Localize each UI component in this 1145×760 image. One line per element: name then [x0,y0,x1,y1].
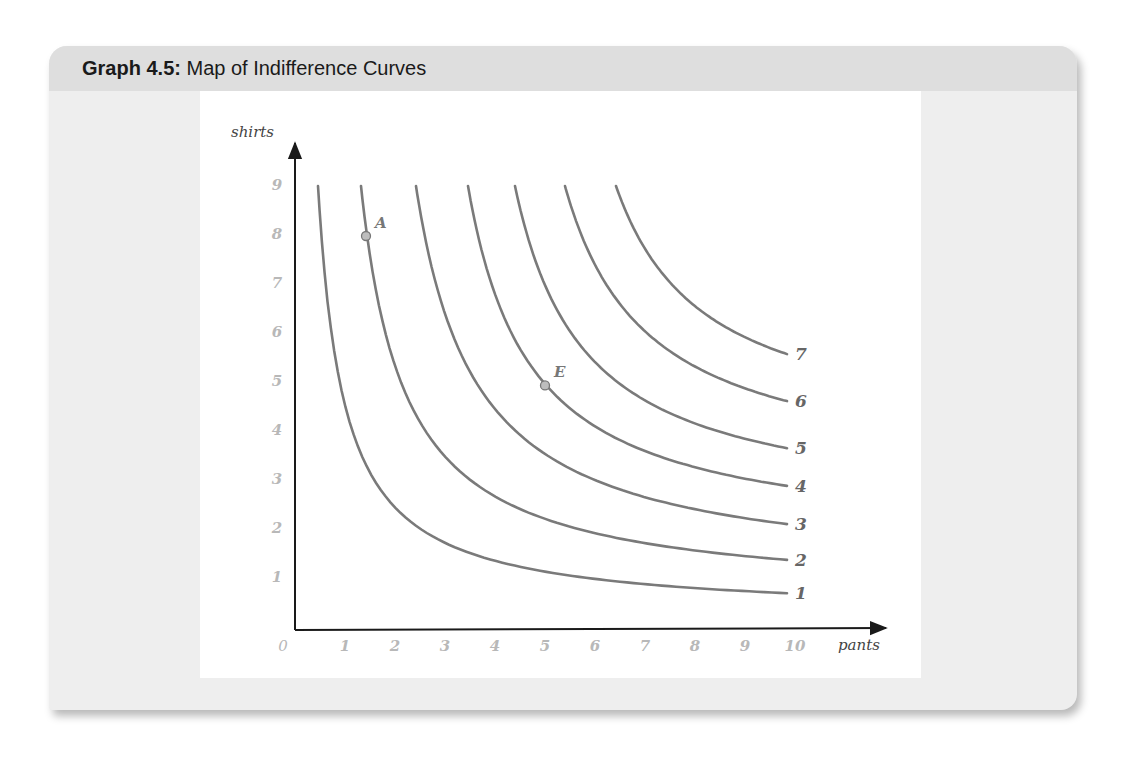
indifference-curve-6 [565,186,787,401]
curve-label-4: 4 [795,476,807,496]
curve-group [318,186,787,593]
point-a-label: A [373,214,387,232]
indifference-curve-1 [318,186,787,593]
y-tick-6: 6 [272,323,283,341]
y-tick-7: 7 [272,274,283,292]
indifference-curve-5 [515,186,787,448]
indifference-curve-3 [416,186,787,524]
curve-labels: 1234567 [794,344,807,603]
x-tick-10: 10 [785,637,806,655]
point-e-marker [541,381,550,390]
y-tick-1: 1 [272,568,282,586]
curve-label-3: 3 [795,514,807,534]
x-tick-4: 4 [490,637,500,655]
y-tick-labels: 123456789 [271,176,283,586]
y-axis-label: shirts [231,123,274,141]
x-axis-label: pants [838,636,880,654]
curve-label-5: 5 [795,438,807,458]
y-tick-5: 5 [272,372,282,390]
x-tick-labels: 012345678910 [278,637,806,655]
y-tick-8: 8 [272,225,283,243]
curve-label-7: 7 [795,344,807,364]
x-axis [295,628,886,630]
curve-label-1: 1 [795,583,807,603]
x-tick-5: 5 [540,637,550,655]
curve-label-6: 6 [795,391,807,411]
x-tick-7: 7 [640,637,651,655]
x-tick-1: 1 [340,637,350,655]
x-tick-9: 9 [740,637,751,655]
indifference-curve-4 [468,186,787,486]
y-tick-4: 4 [272,421,282,439]
x-tick-6: 6 [590,637,601,655]
x-tick-3: 3 [440,637,450,655]
curve-label-2: 2 [794,550,807,570]
point-e-label: E [553,363,566,381]
point-annotations: AE [362,214,567,390]
y-tick-9: 9 [272,176,283,194]
x-tick-2: 2 [389,637,400,655]
y-tick-2: 2 [271,519,282,537]
y-tick-3: 3 [272,470,282,488]
indifference-curve-chart: 012345678910 123456789 shirts pants 1234… [0,0,1145,760]
x-tick-0: 0 [278,637,288,655]
x-tick-8: 8 [690,637,701,655]
point-a-marker [362,232,371,241]
